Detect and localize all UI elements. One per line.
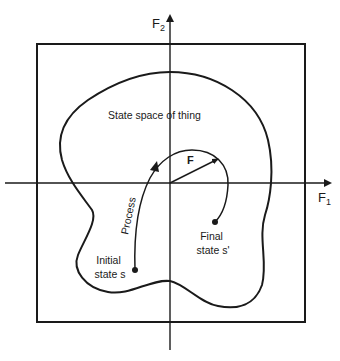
- initial-state-label: Initial state s: [95, 254, 126, 280]
- state-space-boundary: [60, 72, 272, 307]
- f2-axis-label: F2: [152, 16, 165, 33]
- state-space-diagram: F2 F1 State space of thing F Process Ini…: [0, 0, 340, 361]
- process-arrow-icon: [150, 161, 159, 172]
- f1-axis-label: F1: [318, 190, 331, 207]
- initial-state-point: [132, 267, 138, 273]
- process-label: Process: [118, 196, 138, 236]
- vector-f-label: F: [187, 154, 194, 166]
- final-state-label: Final state s': [197, 230, 230, 256]
- vector-f-arrow: [170, 159, 218, 183]
- final-state-point: [212, 219, 218, 225]
- state-space-label: State space of thing: [108, 109, 201, 121]
